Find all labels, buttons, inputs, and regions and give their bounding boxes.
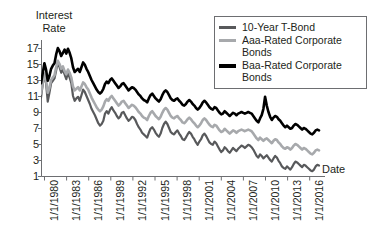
x-tick-label: 1/1/2007 (247, 180, 259, 221)
x-tick-label: 1/1/2013 (291, 180, 303, 221)
legend-label: Aaa-Rated Corporate Bonds (242, 34, 361, 58)
x-tick-label: 1/1/1995 (159, 180, 171, 221)
x-tick-label: 1/1/2001 (203, 180, 215, 221)
x-tick-label: 1/1/2016 (313, 180, 325, 221)
legend-item: Baa-Rated Corporate Bonds (219, 59, 361, 83)
x-tick-label: 1/1/2010 (269, 180, 281, 221)
x-tick-label: 1/1/1998 (181, 180, 193, 221)
x-tick-label: 1/1/1992 (136, 180, 148, 221)
legend-item: 10-Year T-Bond (219, 21, 361, 33)
legend-label: 10-Year T-Bond (242, 21, 315, 33)
legend-swatch-baa-icon (219, 64, 236, 68)
legend-item: Aaa-Rated Corporate Bonds (219, 34, 361, 58)
legend-swatch-t-bond-icon (219, 26, 236, 29)
x-tick-label: 1/1/1989 (114, 180, 126, 221)
legend-label: Baa-Rated Corporate Bonds (242, 59, 361, 83)
x-tick-label: 1/1/1983 (70, 180, 82, 221)
x-tick-label: 1/1/1986 (92, 180, 104, 221)
legend: 10-Year T-Bond Aaa-Rated Corporate Bonds… (214, 16, 367, 89)
x-tick-label: 1/1/2004 (225, 180, 237, 221)
x-tick-label: 1/1/1980 (48, 180, 60, 221)
legend-swatch-aaa-icon (219, 39, 236, 42)
interest-rate-chart: Interest Rate Date 1357911131517 1/1/198… (0, 0, 379, 243)
